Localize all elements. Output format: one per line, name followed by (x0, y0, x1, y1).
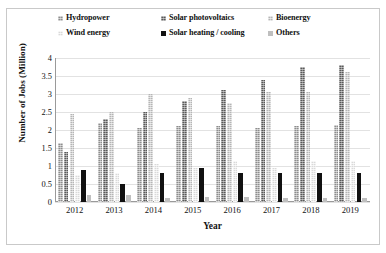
x-axis-tick-label: 2013 (94, 205, 133, 219)
y-axis-tick-label: 3.5 (42, 72, 52, 81)
bar (126, 195, 131, 202)
bar (81, 170, 86, 202)
bar (221, 90, 226, 202)
legend-label: Solar heating / cooling (169, 29, 245, 37)
legend-swatch-icon (58, 16, 63, 21)
bar (266, 92, 271, 202)
bar-group (173, 58, 212, 202)
bar (205, 197, 210, 202)
legend-swatch-icon (161, 16, 166, 21)
legend-item-hydropower: Hydropower (58, 14, 109, 22)
bar (334, 125, 339, 202)
y-axis-tick-label: 1.5 (42, 144, 52, 153)
x-axis-tick-label: 2016 (213, 205, 252, 219)
bar (58, 143, 63, 202)
x-axis-tick-label: 2015 (173, 205, 212, 219)
y-axis-title: Number of Jobs (Million) (17, 23, 27, 163)
bar (216, 126, 221, 202)
bar (182, 101, 187, 202)
bar-group (252, 58, 291, 202)
bar (87, 195, 92, 202)
bar (109, 112, 114, 202)
plot-area (55, 58, 370, 202)
bar (345, 72, 350, 202)
bar-group (55, 58, 94, 202)
bar (137, 128, 142, 202)
bar (199, 168, 204, 202)
bar (244, 197, 249, 202)
x-axis-tick-label: 2018 (291, 205, 330, 219)
bar-group (213, 58, 252, 202)
x-axis-tick-label: 2014 (134, 205, 173, 219)
bar (227, 103, 232, 202)
bar (154, 164, 159, 202)
y-axis-tick-label: 0.5 (42, 180, 52, 189)
bar (64, 152, 69, 202)
bar (283, 198, 288, 202)
legend-swatch-icon (58, 31, 63, 36)
legend-item-others: Others (268, 29, 300, 37)
bar-group (331, 58, 370, 202)
legend-label: Solar photovoltaics (169, 14, 234, 22)
bar (70, 114, 75, 202)
bar (165, 198, 170, 202)
bar (233, 161, 238, 202)
bar (188, 98, 193, 202)
bar (148, 94, 153, 202)
bar (143, 112, 148, 202)
legend-item-solar-photovoltaics: Solar photovoltaics (161, 14, 234, 22)
bar-group (134, 58, 173, 202)
bar (362, 198, 367, 202)
legend-item-solar-heating-cooling: Solar heating / cooling (161, 29, 245, 37)
legend-item-wind-energy: Wind energy (58, 29, 110, 37)
bar (255, 128, 260, 202)
legend-label: Hydropower (66, 14, 109, 22)
bar (103, 119, 108, 202)
x-axis-tick-label: 2019 (331, 205, 370, 219)
y-axis-tick-label: 2 (48, 126, 52, 135)
bar (323, 198, 328, 202)
bar (115, 173, 120, 202)
bar-group (94, 58, 133, 202)
chart-figure: Hydropower Solar photovoltaics Bioenergy… (0, 0, 386, 253)
legend-label: Bioenergy (276, 14, 311, 22)
x-axis-tick-label: 2017 (252, 205, 291, 219)
bar (317, 173, 322, 202)
bar (193, 168, 198, 202)
bar (75, 175, 80, 202)
chart-legend: Hydropower Solar photovoltaics Bioenergy… (46, 14, 346, 44)
bar (238, 173, 243, 202)
bar (351, 161, 356, 202)
bar (261, 80, 266, 202)
bar (278, 173, 283, 202)
bar (98, 123, 103, 202)
y-axis-tick-label: 2.5 (42, 108, 52, 117)
bar (357, 173, 362, 202)
bar (311, 161, 316, 202)
bar-groups (55, 58, 370, 202)
legend-label: Wind energy (66, 29, 110, 37)
y-axis-tick-label: 3 (48, 90, 52, 99)
bar (294, 126, 299, 202)
bar-group (291, 58, 330, 202)
y-axis-tick-labels: 00.511.522.533.54 (28, 58, 52, 202)
bar (339, 65, 344, 202)
x-axis-tick-label: 2012 (55, 205, 94, 219)
bar (160, 173, 165, 202)
y-axis-tick-label: 0 (48, 198, 52, 207)
y-axis-tick-label: 1 (48, 162, 52, 171)
x-axis-tick-labels: 20122013201420152016201720182019 (55, 205, 370, 219)
legend-swatch-icon (268, 31, 273, 36)
bar (306, 92, 311, 202)
y-axis-tick-label: 4 (48, 54, 52, 63)
bar (120, 184, 125, 202)
gridline (55, 202, 370, 203)
bar (176, 126, 181, 202)
legend-item-bioenergy: Bioenergy (268, 14, 311, 22)
x-axis-title: Year (55, 221, 370, 231)
legend-label: Others (276, 29, 300, 37)
bar (300, 67, 305, 202)
bar (272, 168, 277, 202)
legend-swatch-icon (161, 31, 166, 36)
legend-swatch-icon (268, 16, 273, 21)
